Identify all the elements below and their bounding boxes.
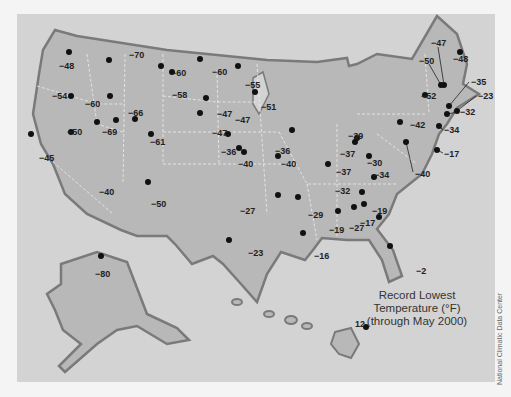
station-marker: [197, 56, 203, 62]
temperature-label: −48: [59, 62, 74, 71]
temperature-label: −27: [240, 207, 255, 216]
temperature-label: −23: [478, 92, 493, 101]
temperature-label: −40: [281, 160, 296, 169]
station-marker: [252, 89, 258, 95]
temperature-label: −29: [308, 211, 323, 220]
station-marker: [225, 131, 231, 137]
alaska-shape: [47, 252, 189, 372]
station-marker: [68, 93, 74, 99]
station-marker: [145, 179, 151, 185]
station-marker: [226, 237, 232, 243]
temperature-label: −51: [261, 103, 276, 112]
temperature-label: −47: [431, 39, 446, 48]
temperature-label: −37: [340, 150, 355, 159]
temperature-label: −52: [421, 92, 436, 101]
station-marker: [158, 63, 164, 69]
station-marker: [113, 117, 119, 123]
station-marker: [444, 111, 450, 117]
map-frame: −48−54−60−70−60−66−58−60−55−51−47−47−36−…: [17, 14, 495, 382]
station-marker: [295, 194, 301, 200]
station-marker: [376, 214, 382, 220]
temperature-label: −60: [85, 100, 100, 109]
station-marker: [352, 139, 358, 145]
station-marker: [169, 69, 175, 75]
temperature-label: −32: [335, 187, 350, 196]
temperature-label: −80: [95, 270, 110, 279]
temperature-label: −34: [374, 171, 389, 180]
station-marker: [235, 63, 241, 69]
hawaii-shapes: [232, 299, 359, 358]
station-marker: [387, 243, 393, 249]
temperature-label: −2: [416, 267, 426, 276]
station-marker: [66, 49, 72, 55]
station-marker: [446, 103, 452, 109]
station-marker: [28, 131, 34, 137]
station-marker: [325, 161, 331, 167]
temperature-label: −50: [151, 200, 166, 209]
temperature-label: −40: [99, 188, 114, 197]
temperature-label: −42: [410, 121, 425, 130]
source-credit: National Climatic Data Center: [496, 293, 503, 385]
temperature-label: −50: [419, 57, 434, 66]
station-marker: [335, 208, 341, 214]
temperature-label: −45: [39, 154, 54, 163]
temperature-label: −48: [453, 55, 468, 64]
station-marker: [203, 95, 209, 101]
temperature-label: −61: [150, 138, 165, 147]
temperature-label: −36: [275, 147, 290, 156]
temperature-label: −47: [217, 110, 232, 119]
station-marker: [241, 149, 247, 155]
temperature-label: −17: [360, 219, 375, 228]
map-legend: Record Lowest Temperature (°F) (through …: [357, 289, 477, 328]
station-marker: [98, 253, 104, 259]
temperature-label: −23: [248, 249, 263, 258]
station-marker: [359, 189, 365, 195]
temperature-label: −17: [444, 150, 459, 159]
station-marker: [300, 230, 306, 236]
temperature-label: −70: [129, 51, 144, 60]
temperature-label: −50: [67, 128, 82, 137]
station-marker: [197, 110, 203, 116]
temperature-label: −32: [460, 108, 475, 117]
station-marker: [289, 127, 295, 133]
temperature-label: −37: [336, 168, 351, 177]
temperature-label: −58: [172, 91, 187, 100]
station-marker: [351, 204, 357, 210]
temperature-label: −40: [415, 170, 430, 179]
legend-line-1: Record Lowest: [357, 289, 477, 302]
temperature-label: −40: [238, 160, 253, 169]
station-marker: [94, 119, 100, 125]
station-marker: [132, 116, 138, 122]
temperature-label: −34: [444, 126, 459, 135]
station-marker: [397, 119, 403, 125]
station-marker: [438, 82, 444, 88]
station-marker: [107, 93, 113, 99]
temperature-label: −60: [212, 68, 227, 77]
temperature-label: −69: [102, 128, 117, 137]
temperature-label: −16: [314, 252, 329, 261]
temperature-label: −30: [367, 159, 382, 168]
station-marker: [148, 131, 154, 137]
station-marker: [361, 201, 367, 207]
station-marker: [403, 139, 409, 145]
station-marker: [436, 123, 442, 129]
temperature-label: −36: [221, 148, 236, 157]
station-marker: [434, 147, 440, 153]
temperature-label: −35: [471, 78, 486, 87]
temperature-label: −54: [52, 92, 67, 101]
temperature-label: −47: [235, 116, 250, 125]
temperature-label: −19: [329, 226, 344, 235]
legend-line-3: (through May 2000): [357, 315, 477, 328]
station-marker: [275, 192, 281, 198]
legend-line-2: Temperature (°F): [357, 302, 477, 315]
station-marker: [106, 57, 112, 63]
